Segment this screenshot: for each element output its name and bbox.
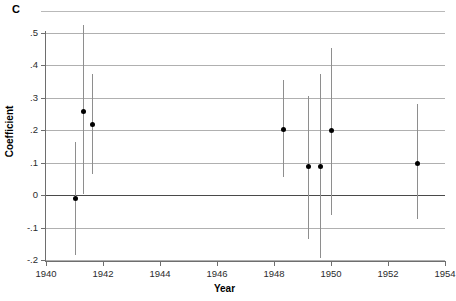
data-point-marker <box>81 109 86 114</box>
data-point-marker <box>281 127 286 132</box>
x-axis-tick <box>217 261 218 266</box>
y-axis-tick-label: -.2 <box>27 254 38 265</box>
x-axis-tick <box>274 261 275 266</box>
y-axis-tick-label: .1 <box>30 157 38 168</box>
y-axis-tick <box>41 228 46 229</box>
gridline <box>46 98 445 99</box>
y-axis-title: Coefficient <box>4 92 15 172</box>
gridline <box>46 228 445 229</box>
gridline <box>46 65 445 66</box>
top-rule-divider <box>41 11 445 12</box>
x-axis-tick <box>445 261 446 266</box>
y-axis-tick-label: .5 <box>30 27 38 38</box>
y-axis-tick <box>41 163 46 164</box>
gridline <box>46 260 445 261</box>
x-axis-tick <box>388 261 389 266</box>
x-axis-tick-label: 1952 <box>377 268 398 279</box>
y-axis-tick <box>41 195 46 196</box>
y-axis-tick <box>41 33 46 34</box>
plot-area <box>46 33 445 260</box>
y-axis-tick <box>41 98 46 99</box>
x-axis-tick-label: 1954 <box>434 268 455 279</box>
y-axis-tick-label: -.1 <box>27 222 38 233</box>
zero-reference-line <box>46 195 445 196</box>
x-axis-tick-label: 1944 <box>149 268 170 279</box>
data-point-marker <box>415 161 420 166</box>
x-axis-tick <box>46 261 47 266</box>
y-axis-tick-label: .3 <box>30 92 38 103</box>
gridline <box>46 130 445 131</box>
x-axis-tick <box>331 261 332 266</box>
x-axis-tick-label: 1942 <box>92 268 113 279</box>
x-axis-line <box>45 261 446 262</box>
data-point-marker <box>90 122 95 127</box>
x-axis-tick-label: 1940 <box>35 268 56 279</box>
gridline <box>46 163 445 164</box>
x-axis-tick-label: 1948 <box>263 268 284 279</box>
y-axis-tick-label: .4 <box>30 59 38 70</box>
data-point-marker <box>318 164 323 169</box>
y-axis-tick <box>41 130 46 131</box>
gridline <box>46 33 445 34</box>
y-axis-tick-label: .2 <box>30 124 38 135</box>
x-axis-tick-label: 1950 <box>320 268 341 279</box>
data-point-marker <box>306 164 311 169</box>
y-axis-tick <box>41 65 46 66</box>
y-axis-tick-labels: .5.4.3.2.10-.1-.2 <box>14 0 38 301</box>
x-axis-title: Year <box>0 283 449 294</box>
x-axis-tick-label: 1946 <box>206 268 227 279</box>
y-axis-tick-label: 0 <box>33 189 38 200</box>
x-axis-tick <box>160 261 161 266</box>
x-axis-tick <box>103 261 104 266</box>
